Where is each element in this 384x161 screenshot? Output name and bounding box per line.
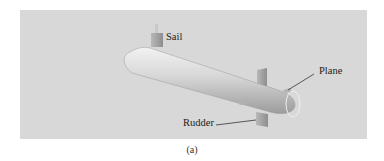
figure-caption: (a)	[0, 144, 384, 155]
rudder-label: Rudder	[183, 117, 214, 128]
rudder-leader-line	[216, 120, 256, 125]
submarine-illustration	[0, 0, 384, 161]
lower-rudder	[256, 112, 268, 127]
plane-label: Plane	[319, 65, 342, 76]
sail-fin	[151, 33, 163, 47]
hull	[124, 47, 295, 113]
plane-leader-line	[288, 74, 314, 90]
sail-label: Sail	[166, 31, 182, 42]
